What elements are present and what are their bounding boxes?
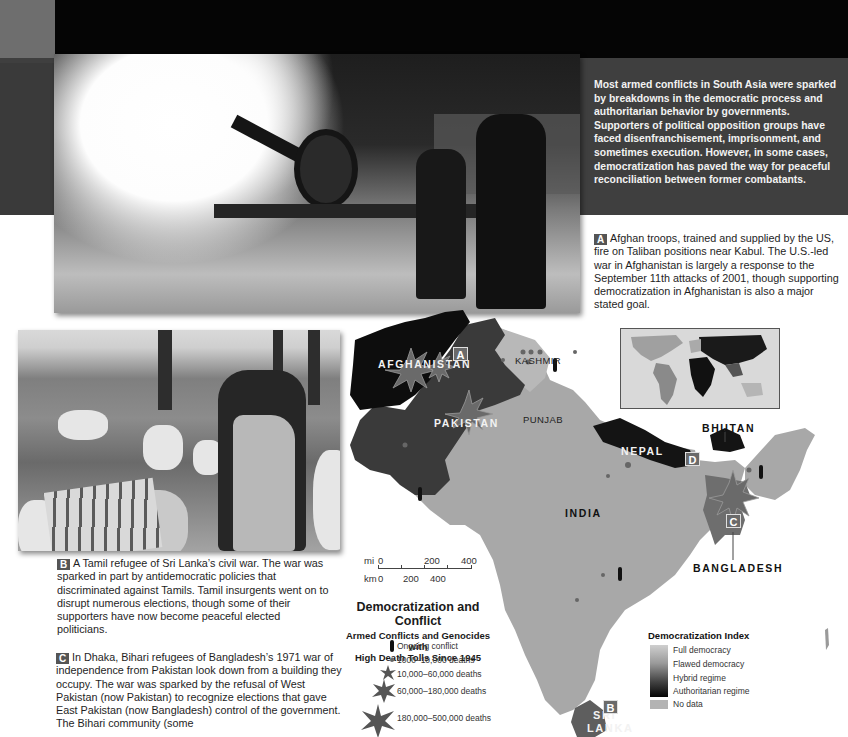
photo-bundle — [58, 410, 108, 440]
legend-index-ramp — [650, 645, 668, 697]
map-label-bangladesh: BANGLADESH — [693, 562, 783, 574]
ongoing-conflict-icon — [418, 487, 422, 501]
islands-andaman — [825, 628, 829, 650]
map-label-lanka: LANKA — [587, 722, 634, 734]
photo-sari — [233, 415, 295, 551]
photo-afghan-troops — [54, 54, 580, 313]
legend-conflict: Democratization and Conflict Armed Confl… — [338, 600, 498, 663]
map-badge-a: A — [453, 347, 468, 361]
legend-item-60000: 60,000–180,000 deaths — [397, 686, 486, 696]
map-label-bhutan: BHUTAN — [702, 422, 755, 434]
ongoing-conflict-icon — [759, 465, 763, 479]
scale-km-0: 0 — [378, 573, 383, 584]
caption-a: AAfghan troops, trained and supplied by … — [594, 232, 844, 312]
burst-large-icon — [360, 703, 396, 737]
map-label-nepal: NEPAL — [621, 445, 664, 457]
ongoing-conflict-icon — [618, 567, 622, 581]
scale-tick — [447, 565, 448, 569]
scale-tick — [471, 565, 472, 569]
world-map-shapes — [621, 329, 780, 409]
scale-line — [378, 568, 472, 569]
caption-c: CIn Dhaka, Bihari refugees of Bangladesh… — [56, 651, 342, 731]
scale-mi-label: mi — [364, 555, 374, 566]
photo-soldier — [476, 114, 546, 309]
inset-world-map — [620, 328, 780, 409]
legend-item-180000: 180,000–500,000 deaths — [397, 713, 491, 723]
legend-index-authoritarian: Authoritarian regime — [673, 686, 750, 696]
burst-medium-icon — [371, 678, 397, 704]
caption-c-text: In Dhaka, Bihari refugees of Bangladesh’… — [56, 651, 342, 729]
map-badge-b: B — [603, 700, 618, 714]
map-label-punjab: PUNJAB — [523, 414, 563, 425]
legend-index-full: Full democracy — [673, 645, 731, 655]
caption-a-text: Afghan troops, trained and supplied by t… — [594, 232, 839, 310]
scale-mi-400: 400 — [461, 555, 477, 566]
map-badge-d: D — [685, 452, 700, 466]
photo-soldier — [416, 149, 466, 299]
legend-item-ongoing: Ongoing conflict — [397, 641, 458, 651]
legend-index-flawed: Flawed democracy — [673, 659, 744, 669]
scale-bar: mi 0 200 400 km 0 200 400 — [360, 555, 480, 595]
map-label-india: INDIA — [565, 507, 602, 519]
caption-badge-a: A — [594, 234, 607, 245]
caption-b: BA Tamil refugee of Sri Lanka’s civil wa… — [57, 557, 329, 637]
scale-km-400: 400 — [430, 573, 446, 584]
photo-tree — [308, 330, 320, 405]
legend-index-nodata-swatch — [650, 700, 668, 709]
legend-index-title: Democratization Index — [648, 630, 798, 641]
intro-band-left — [0, 63, 55, 215]
scale-km-label: km — [364, 573, 377, 584]
legend-conflict-title: Democratization and Conflict — [338, 600, 498, 628]
map-badge-c: C — [726, 514, 741, 528]
intro-text: Most armed conflicts in South Asia were … — [594, 78, 842, 187]
scale-tick — [424, 565, 425, 569]
legend-item-10000: 10,000–60,000 deaths — [397, 669, 482, 679]
photo-tree — [158, 330, 172, 410]
photo-howitzer-wheel — [294, 129, 358, 209]
caption-badge-c: C — [56, 653, 69, 664]
scale-tick — [401, 565, 402, 569]
photo-bundle — [313, 450, 340, 550]
legend-index-nodata: No data — [673, 699, 703, 709]
scale-tick — [378, 565, 379, 569]
photo-bundle — [143, 425, 183, 470]
legend-index-hybrid: Hybrid regime — [673, 673, 726, 683]
legend-democratization-index: Democratization Index Full democracy Fla… — [648, 630, 798, 641]
scale-km-200: 200 — [403, 573, 419, 584]
legend-item-1000: 1000–10,000 deaths — [397, 655, 475, 665]
photo-howitzer-trail — [214, 204, 514, 218]
photo-mat — [44, 478, 163, 551]
map-label-pakistan: PAKISTAN — [434, 417, 499, 429]
map-label-kashmir: KASHMIR — [515, 355, 561, 366]
region-northeast-india — [745, 428, 815, 500]
header-band-grey — [0, 0, 55, 63]
scale-mi-200: 200 — [424, 555, 440, 566]
caption-b-text: A Tamil refugee of Sri Lanka’s civil war… — [57, 557, 328, 635]
header-band-black — [55, 0, 848, 58]
ongoing-conflict-icon — [388, 640, 396, 654]
caption-badge-b: B — [57, 559, 70, 570]
photo-tamil-refugee — [18, 330, 340, 551]
